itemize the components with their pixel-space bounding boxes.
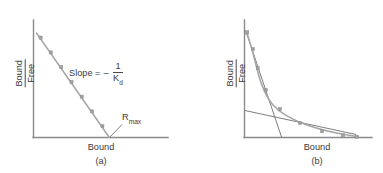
panel-a-data-point [49,51,52,54]
scatchard-plot-figure: Bound Free Slope = – 1 Kd Rmax Bound (a)… [0,0,383,173]
panel-b-x-axis-label: Bound [286,142,348,152]
panel-b-y-axis-label: Bound Free [225,52,248,94]
panel-b-y-axis-label-numerator: Bound [225,59,237,88]
panel-a-data-point [60,66,63,69]
panel-a-caption: (a) [70,156,132,166]
panel-b-data-point [298,121,301,124]
panel-b-caption: (b) [286,156,348,166]
panel-a-data-point [91,110,94,113]
panel-b-data-point [355,135,358,138]
panel-a-slope-annotation: Slope = – 1 Kd [69,62,125,85]
slope-equation-lhs: Slope = [69,68,102,78]
panel-a-data-line [37,33,110,137]
panel-b-data-point [264,88,267,91]
panel-a-x-axis-label: Bound [70,142,132,152]
panel-a-y-axis-label-denominator: Free [26,63,37,84]
rmax-subscript: max [129,118,141,125]
panel-b-y-axis-label-denominator: Free [237,63,248,84]
panel-b-data-point [245,31,249,35]
panel-b-data-point [251,47,254,50]
panel-b-data-point [320,130,323,133]
panel-a-y-axis-label-numerator: Bound [14,59,26,88]
panel-b-data-curve [247,32,359,137]
panel-b-data-point [341,134,344,137]
panel-a-rmax-pointer [110,125,122,137]
panel-b-group [244,20,372,138]
panel-a-data-point [80,95,83,98]
panel-b-data-point [256,67,259,70]
rmax-base: R [122,112,129,122]
panel-a-rmax-label: Rmax [122,112,141,124]
slope-equation-fraction-denominator: Kd [111,73,126,84]
slope-equation-fraction: 1 Kd [111,62,126,85]
panel-b-data-point [278,107,281,110]
kd-subscript: d [119,79,123,86]
panel-a-y-axis-label: Bound Free [14,52,37,94]
slope-equation-fraction-numerator: 1 [113,62,123,73]
panel-a-data-point [101,125,104,128]
slope-equation-minus-sign: – [102,68,110,78]
panel-a-data-point [39,36,42,39]
